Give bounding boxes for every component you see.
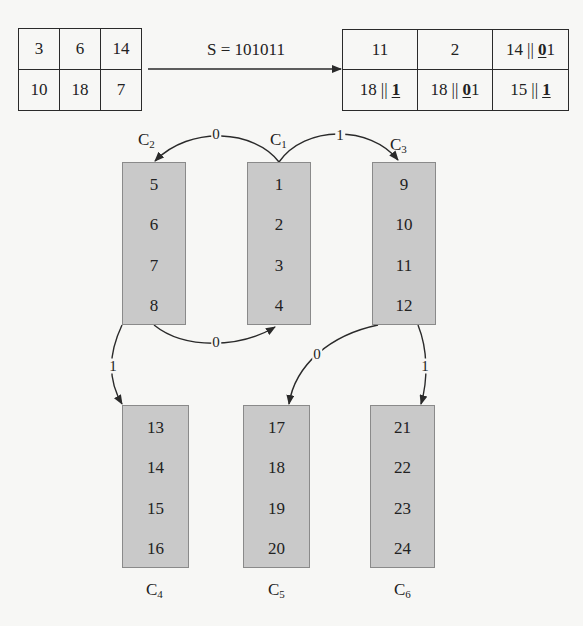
cluster-item: 13	[123, 418, 188, 438]
cluster-item: 17	[244, 418, 309, 438]
cluster-box-c3: 9 10 11 12	[372, 162, 436, 325]
cluster-item: 7	[123, 256, 185, 276]
cluster-item: 9	[373, 175, 435, 195]
cluster-box-c4: 13 14 15 16	[122, 405, 189, 568]
edge-label: 1	[108, 359, 118, 374]
cluster-box-c5: 17 18 19 20	[243, 405, 310, 568]
edge-label: 0	[211, 127, 221, 142]
cluster-item: 4	[248, 296, 310, 316]
edge-label: 0	[312, 347, 322, 362]
edge-c3-c5	[289, 325, 378, 404]
cluster-box-c1: 1 2 3 4	[247, 162, 311, 325]
cluster-label-c1: C1	[270, 130, 287, 150]
cluster-label-c3: C3	[390, 135, 407, 155]
cluster-item: 11	[373, 256, 435, 276]
cluster-box-c2: 5 6 7 8	[122, 162, 186, 325]
cluster-item: 18	[244, 458, 309, 478]
cluster-item: 21	[371, 418, 434, 438]
cluster-box-c6: 21 22 23 24	[370, 405, 435, 568]
cluster-item: 3	[248, 256, 310, 276]
cluster-label-c4: C4	[146, 580, 163, 600]
cluster-item: 6	[123, 215, 185, 235]
cluster-item: 5	[123, 175, 185, 195]
cluster-item: 16	[123, 539, 188, 559]
cluster-item: 23	[371, 499, 434, 519]
cluster-item: 10	[373, 215, 435, 235]
cluster-item: 2	[248, 215, 310, 235]
cluster-item: 8	[123, 296, 185, 316]
edge-label: 1	[335, 128, 345, 143]
cluster-item: 24	[371, 539, 434, 559]
cluster-item: 20	[244, 539, 309, 559]
cluster-label-c5: C5	[268, 580, 285, 600]
cluster-item: 19	[244, 499, 309, 519]
cluster-item: 15	[123, 499, 188, 519]
cluster-item: 14	[123, 458, 188, 478]
cluster-label-c6: C6	[394, 580, 411, 600]
cluster-label-c2: C2	[138, 130, 155, 150]
cluster-item: 12	[373, 296, 435, 316]
edge-label: 0	[211, 335, 221, 350]
cluster-item: 22	[371, 458, 434, 478]
edge-label: 1	[420, 359, 430, 374]
cluster-item: 1	[248, 175, 310, 195]
